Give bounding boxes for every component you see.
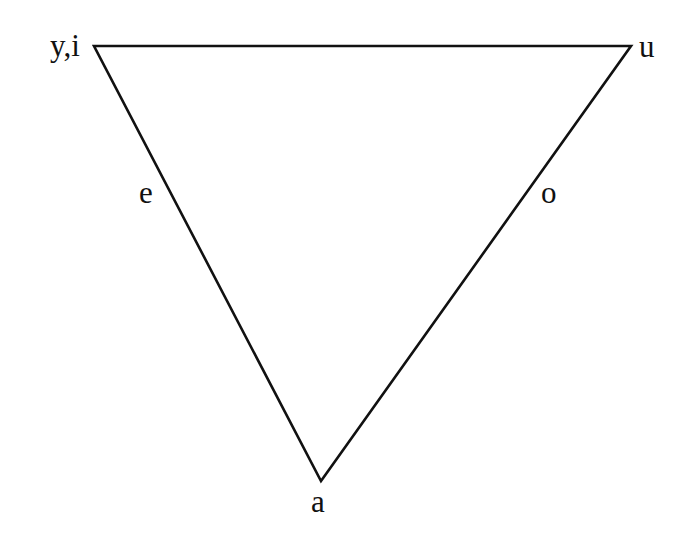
vertex-label-top-left: y,i xyxy=(50,28,80,63)
vowel-triangle-diagram: y,i u a e o xyxy=(0,0,689,542)
triangle-outline xyxy=(94,46,631,481)
edge-label-left: e xyxy=(139,175,153,210)
vertex-label-bottom: a xyxy=(311,484,325,519)
edge-label-right: o xyxy=(541,175,557,210)
vertex-label-top-right: u xyxy=(639,29,655,64)
